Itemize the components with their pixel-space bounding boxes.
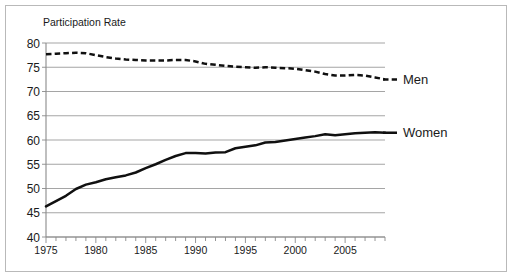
x-tick-label: 2000: [284, 244, 308, 256]
y-tick-label: 50: [27, 182, 41, 196]
y-tick-label: 65: [27, 109, 41, 123]
x-tick-labels-group: 1975198019851990199520002005: [34, 244, 357, 256]
chart-svg: 404550556065707580 197519801985199019952…: [0, 0, 512, 277]
y-tick-label: 55: [27, 158, 41, 172]
y-tick-labels-group: 404550556065707580: [27, 37, 46, 245]
series-label-women: Women: [403, 125, 448, 140]
series-label-men: Men: [403, 72, 428, 87]
screenshot-root: 404550556065707580 197519801985199019952…: [0, 0, 512, 277]
y-tick-label: 60: [27, 134, 41, 148]
series-line-men: [46, 53, 385, 80]
x-axis-group: [46, 237, 385, 243]
x-tick-label: 1980: [84, 244, 108, 256]
chart-title: Participation Rate: [43, 16, 126, 28]
series-line-women: [46, 132, 385, 206]
y-tick-label: 45: [27, 206, 41, 220]
x-tick-label: 1985: [134, 244, 158, 256]
y-tick-label: 80: [27, 37, 41, 51]
gridlines-group: [46, 43, 385, 237]
line-chart: 404550556065707580 197519801985199019952…: [0, 0, 512, 277]
x-tick-label: 1995: [234, 244, 258, 256]
x-tick-label: 1990: [184, 244, 208, 256]
x-tick-label: 2005: [333, 244, 357, 256]
x-tick-marks-group: [46, 237, 385, 243]
y-tick-label: 75: [27, 61, 41, 75]
x-tick-label: 1975: [34, 244, 58, 256]
y-tick-label: 40: [27, 231, 41, 245]
y-tick-label: 70: [27, 85, 41, 99]
